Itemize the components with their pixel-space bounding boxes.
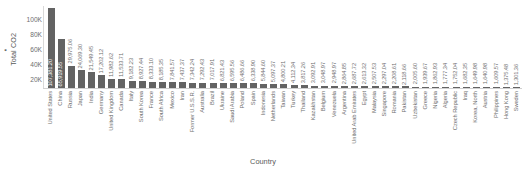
- bar-item[interactable]: 17,202.12: [97, 6, 107, 88]
- bar-item[interactable]: 2,864.85: [340, 6, 350, 88]
- bar-item[interactable]: 6,486.66: [238, 6, 248, 88]
- bar-item[interactable]: 8,185.35: [157, 6, 167, 88]
- bar[interactable]: [361, 86, 368, 88]
- bar-value-label: 2,613.32: [362, 63, 368, 84]
- bar-item[interactable]: 11,982.62: [107, 6, 117, 88]
- bar-item[interactable]: 1,777.34: [441, 6, 451, 88]
- bar-item[interactable]: 2,118.66: [400, 6, 410, 88]
- bar[interactable]: [372, 86, 379, 88]
- bar-item[interactable]: 21,549.45: [87, 6, 97, 88]
- bar-item[interactable]: 2,687.72: [350, 6, 360, 88]
- bar[interactable]: [432, 87, 439, 88]
- bar-item[interactable]: 7,292.43: [198, 6, 208, 88]
- bar-item[interactable]: 29,975.06: [66, 6, 76, 88]
- bar-item[interactable]: 4,112.34: [289, 6, 299, 88]
- x-tick-label: Belgium: [322, 91, 328, 111]
- x-tick-label: Korea, North: [473, 91, 479, 123]
- bar[interactable]: [159, 82, 166, 88]
- bar[interactable]: [210, 83, 217, 88]
- bar-item[interactable]: 2,613.32: [360, 6, 370, 88]
- bar-item[interactable]: 8,333.10: [147, 6, 157, 88]
- bar-item[interactable]: 6,821.43: [218, 6, 228, 88]
- bar[interactable]: [260, 84, 267, 88]
- bar[interactable]: [453, 87, 460, 88]
- bar[interactable]: [331, 86, 338, 88]
- bar-value-label: 1,939.67: [423, 63, 429, 84]
- bar[interactable]: [321, 86, 328, 88]
- bar-item[interactable]: 11,533.71: [117, 6, 127, 88]
- bar[interactable]: [108, 79, 115, 88]
- bar-item[interactable]: 2,507.53: [370, 6, 380, 88]
- bar[interactable]: [473, 87, 480, 88]
- bar-item[interactable]: 1,682.35: [461, 6, 471, 88]
- bar[interactable]: [270, 84, 277, 88]
- bar-item[interactable]: 6,595.56: [228, 6, 238, 88]
- bar[interactable]: [88, 72, 95, 88]
- bar[interactable]: [513, 87, 520, 88]
- bar-item[interactable]: 5,844.60: [259, 6, 269, 88]
- bar[interactable]: [189, 83, 196, 88]
- bar[interactable]: [240, 83, 247, 88]
- bar[interactable]: [169, 82, 176, 88]
- bar-item[interactable]: 1,640.98: [481, 6, 491, 88]
- x-label-cell: Venezuela: [330, 90, 340, 152]
- bar-item[interactable]: 1,649.98: [471, 6, 481, 88]
- bar-item[interactable]: 6,338.90: [249, 6, 259, 88]
- bar[interactable]: [118, 79, 125, 88]
- bar[interactable]: [250, 83, 257, 88]
- bar[interactable]: [382, 86, 389, 88]
- bar-item[interactable]: 2,005.60: [411, 6, 421, 88]
- bar-item[interactable]: 7,342.24: [188, 6, 198, 88]
- bar-value-label: 5,097.37: [271, 61, 277, 82]
- bar-value-label: 5,844.60: [261, 60, 267, 81]
- bar[interactable]: [311, 86, 318, 88]
- bar[interactable]: [483, 87, 490, 88]
- bar-item[interactable]: 7,437.37: [178, 6, 188, 88]
- bar-item[interactable]: 1,375.48: [502, 6, 512, 88]
- bar[interactable]: [402, 86, 409, 88]
- bar[interactable]: [463, 87, 470, 88]
- bar-item[interactable]: 2,208.61: [390, 6, 400, 88]
- bar[interactable]: [392, 86, 399, 88]
- bar-item[interactable]: 9,182.23: [127, 6, 137, 88]
- bar[interactable]: [179, 82, 186, 88]
- bar-item[interactable]: 7,841.57: [168, 6, 178, 88]
- x-tick-label: Brazil: [210, 91, 216, 105]
- bar[interactable]: [280, 84, 287, 88]
- bar[interactable]: [230, 83, 237, 88]
- bar-item[interactable]: 1,752.04: [451, 6, 461, 88]
- bar[interactable]: [442, 87, 449, 88]
- bar-item[interactable]: 1,939.67: [421, 6, 431, 88]
- bar[interactable]: [78, 70, 85, 88]
- bar[interactable]: [98, 75, 105, 88]
- bar-item[interactable]: 107,381.20: [46, 6, 56, 88]
- bar[interactable]: [301, 85, 308, 88]
- bar[interactable]: [149, 82, 156, 88]
- bar[interactable]: [129, 81, 136, 88]
- bar-item[interactable]: 8,927.44: [137, 6, 147, 88]
- bar[interactable]: [291, 85, 298, 88]
- bar[interactable]: [139, 81, 146, 88]
- bar-item[interactable]: 24,069.30: [76, 6, 86, 88]
- bar[interactable]: [422, 87, 429, 88]
- bar[interactable]: [199, 83, 206, 88]
- bar[interactable]: [341, 86, 348, 88]
- bar[interactable]: [412, 87, 419, 88]
- bar-item[interactable]: 4,800.21: [279, 6, 289, 88]
- bar-item[interactable]: 1,301.36: [512, 6, 522, 88]
- bar-item[interactable]: 1,862.93: [431, 6, 441, 88]
- bar[interactable]: [351, 86, 358, 88]
- bar-item[interactable]: 65,919.55: [56, 6, 66, 88]
- bar-item[interactable]: 3,817.26: [299, 6, 309, 88]
- bar-item[interactable]: 2,948.97: [330, 6, 340, 88]
- bar[interactable]: [493, 87, 500, 88]
- bar-item[interactable]: 7,017.91: [208, 6, 218, 88]
- bar-item[interactable]: 1,609.57: [492, 6, 502, 88]
- bar[interactable]: [68, 66, 75, 88]
- bar-item[interactable]: 3,092.91: [309, 6, 319, 88]
- bar-item[interactable]: 3,048.97: [319, 6, 329, 88]
- bar-item[interactable]: 2,297.04: [380, 6, 390, 88]
- bar[interactable]: [503, 87, 510, 88]
- bar-item[interactable]: 5,097.37: [269, 6, 279, 88]
- bar[interactable]: [220, 83, 227, 88]
